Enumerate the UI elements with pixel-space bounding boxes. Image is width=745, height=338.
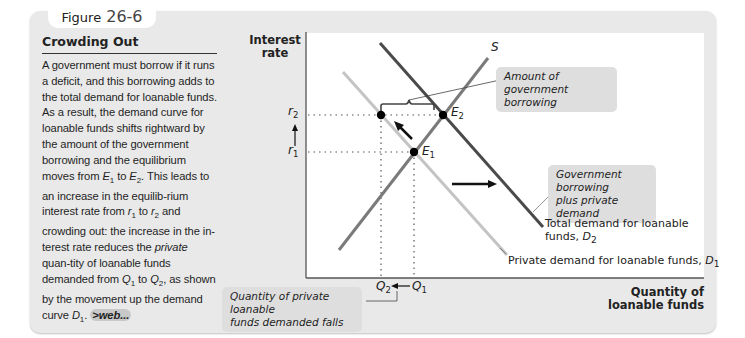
e2-point <box>439 111 447 119</box>
gov-borrowing-callout: Amount of government borrowing <box>496 67 617 112</box>
supply-label: S <box>491 40 499 54</box>
d1-curve-label: Private demand for loanable funds, D1 <box>508 254 720 270</box>
gov-callout-line2: borrowing <box>504 96 609 109</box>
r2-label: r2 <box>288 104 298 120</box>
q-arrow-head <box>391 283 398 289</box>
x-axis-label-line2: loanable funds <box>600 299 704 312</box>
gov-plus-private-callout: Government borrowing plus private demand <box>548 165 656 223</box>
e1-label: E1 <box>422 144 435 160</box>
e2-label: E2 <box>451 105 464 121</box>
q2-label: Q2 <box>376 279 391 295</box>
gov-callout-line1: Amount of government <box>504 70 609 96</box>
d2-label-line2: funds, D2 <box>545 230 689 246</box>
x-axis-label: Quantity of loanable funds <box>600 286 704 312</box>
d2-curve-label: Total demand for loanable funds, D2 <box>545 217 689 246</box>
shift-arrow-head <box>488 180 497 188</box>
q1-label: Q1 <box>412 279 427 295</box>
r1-label: r1 <box>288 143 298 159</box>
crowded-point <box>377 111 385 119</box>
plus-callout-line1: Government borrowing <box>556 168 648 194</box>
d1-curve <box>343 72 507 255</box>
q-callout-line2: funds demanded falls <box>230 316 354 329</box>
borrowing-brace <box>381 100 434 112</box>
q-falls-callout: Quantity of private loanable funds deman… <box>222 287 362 332</box>
q-callout-line1: Quantity of private loanable <box>230 290 354 316</box>
r-arrow-head <box>292 124 298 131</box>
d2-label-line1: Total demand for loanable <box>545 217 689 230</box>
e1-point <box>410 148 418 156</box>
